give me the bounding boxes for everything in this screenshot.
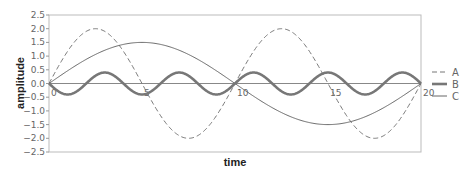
y-tick-label: 1.5 [31, 37, 45, 47]
y-tick-label: −0.5 [23, 92, 45, 102]
y-tick-label: 0.5 [31, 65, 45, 75]
y-tick-label: −1.5 [23, 120, 45, 130]
y-tick-label: −2.5 [23, 147, 45, 157]
y-tick-label: 1.0 [31, 51, 46, 61]
legend-a-label: A [452, 67, 459, 78]
legend-b-label: B [452, 79, 459, 90]
y-tick-label: 0.0 [31, 79, 46, 89]
legend-c-label: C [452, 91, 459, 102]
y-tick-label: 2.0 [31, 24, 46, 34]
x-tick-label: 15 [330, 88, 341, 98]
y-tick-label: 2.5 [31, 10, 45, 20]
y-tick-label: −2.0 [23, 133, 45, 143]
line-chart: 2.52.01.51.00.50.0−0.5−1.0−1.5−2.0−2.5 0… [0, 0, 468, 173]
x-axis-label: time [224, 156, 247, 168]
y-axis-label: amplitude [14, 57, 26, 109]
legend: A B C [432, 67, 459, 102]
y-axis: 2.52.01.51.00.50.0−0.5−1.0−1.5−2.0−2.5 [23, 10, 49, 157]
y-tick-label: −1.0 [23, 106, 45, 116]
